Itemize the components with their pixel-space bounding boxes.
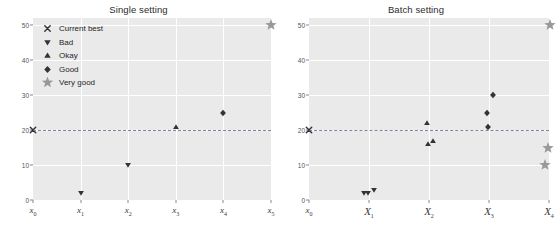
y-tick-mark: [30, 95, 33, 96]
x-gridline: [369, 18, 370, 200]
y-gridline: [33, 95, 271, 96]
y-tick-label: 30: [298, 92, 305, 99]
y-tick-mark: [306, 60, 309, 61]
data-point-x-cross: [305, 126, 314, 135]
x-gridline: [176, 18, 177, 200]
x-tick-mark: [33, 200, 34, 203]
x-tick-label: x0: [306, 205, 313, 217]
diamond-icon: [39, 65, 55, 74]
y-tick-mark: [30, 60, 33, 61]
legend-item: Very good: [39, 76, 103, 90]
x-tick-label: X1: [364, 205, 374, 219]
data-point-star: [539, 159, 552, 172]
data-point-x-cross: [29, 126, 38, 135]
x-tick-mark: [80, 200, 81, 203]
data-point-star: [544, 19, 557, 32]
x-gridline: [429, 18, 430, 200]
x-cross-icon: [39, 24, 55, 33]
x-tick-label: X2: [424, 205, 434, 219]
x-tick-mark: [489, 200, 490, 203]
y-gridline: [33, 200, 271, 201]
x-gridline: [271, 18, 272, 200]
legend-item-label: Bad: [59, 38, 73, 47]
y-tick-mark: [306, 25, 309, 26]
data-point-triangle-down: [77, 189, 85, 197]
legend-item-label: Very good: [59, 78, 95, 87]
data-point-star: [265, 19, 278, 32]
data-point-star: [541, 141, 554, 154]
y-tick-label: 10: [22, 162, 29, 169]
panel-single-setting: Single setting 01020304050x0x1x2x3x4x5Cu…: [0, 0, 277, 236]
x-gridline: [549, 18, 550, 200]
plot-area-batch: 01020304050x0X1X2X3X4: [309, 18, 549, 200]
y-tick-label: 40: [22, 57, 29, 64]
data-point-triangle-down: [124, 161, 132, 169]
x-tick-mark: [175, 200, 176, 203]
y-tick-mark: [30, 25, 33, 26]
legend-item-label: Current best: [59, 24, 103, 33]
x-gridline: [128, 18, 129, 200]
y-tick-label: 10: [298, 162, 305, 169]
data-point-diamond: [489, 91, 497, 99]
x-tick-label: x0: [30, 205, 37, 217]
legend-item-label: Good: [59, 65, 79, 74]
triangle-up-icon: [39, 51, 55, 60]
x-tick-label: x5: [268, 205, 275, 217]
data-point-diamond: [483, 109, 491, 117]
y-tick-label: 0: [301, 197, 305, 204]
data-point-diamond: [219, 109, 227, 117]
plot-area-single: 01020304050x0x1x2x3x4x5Current bestBadOk…: [33, 18, 271, 200]
y-tick-mark: [306, 95, 309, 96]
legend-item: Good: [39, 63, 103, 77]
x-tick-mark: [309, 200, 310, 203]
x-tick-label: x2: [125, 205, 132, 217]
data-point-triangle-down: [370, 186, 378, 194]
x-tick-mark: [223, 200, 224, 203]
x-tick-label: X3: [484, 205, 494, 219]
legend-item: Current best: [39, 22, 103, 36]
data-point-diamond: [484, 123, 492, 131]
legend-item-label: Okay: [59, 51, 78, 60]
x-tick-mark: [128, 200, 129, 203]
y-tick-mark: [306, 165, 309, 166]
legend-item: Bad: [39, 36, 103, 50]
data-point-triangle-up: [429, 137, 437, 145]
triangle-down-icon: [39, 38, 55, 47]
x-tick-mark: [429, 200, 430, 203]
legend-item: Okay: [39, 49, 103, 63]
panel-title-single: Single setting: [0, 4, 277, 15]
x-tick-mark: [369, 200, 370, 203]
star-icon: [39, 76, 55, 89]
y-tick-label: 0: [25, 197, 29, 204]
x-tick-label: X4: [544, 205, 554, 219]
panel-title-batch: Batch setting: [277, 4, 555, 15]
y-gridline: [33, 165, 271, 166]
x-tick-mark: [549, 200, 550, 203]
x-tick-label: x4: [220, 205, 227, 217]
threshold-line: [309, 130, 549, 131]
x-tick-mark: [271, 200, 272, 203]
y-tick-label: 50: [22, 22, 29, 29]
panel-batch-setting: Batch setting 01020304050x0X1X2X3X4: [277, 0, 555, 236]
threshold-line: [33, 130, 271, 131]
x-tick-label: x1: [77, 205, 84, 217]
y-tick-label: 50: [298, 22, 305, 29]
y-tick-label: 30: [22, 92, 29, 99]
y-tick-label: 40: [298, 57, 305, 64]
data-point-triangle-up: [423, 119, 431, 127]
y-tick-mark: [30, 165, 33, 166]
x-tick-label: x3: [172, 205, 179, 217]
legend: Current bestBadOkayGoodVery good: [39, 22, 103, 90]
data-point-triangle-up: [172, 123, 180, 131]
